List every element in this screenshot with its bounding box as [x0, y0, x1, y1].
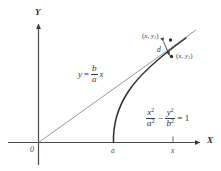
- hyperbola-y-denominator: b2: [165, 118, 174, 129]
- hyperbola-rhs: 1: [185, 114, 190, 123]
- distance-label: d: [157, 46, 161, 54]
- hyperbola-x-numerator: x2: [146, 108, 155, 118]
- asymptote-denominator: a: [91, 74, 98, 85]
- point-label-lower: (x, y1): [176, 53, 193, 60]
- hyperbola-equation: x2 a2 − y2 b2 = 1: [146, 108, 189, 128]
- asymptote-fraction: b a: [91, 64, 98, 84]
- vertex-label: a: [111, 147, 115, 155]
- hyperbola-y-num-exp: 2: [171, 107, 174, 113]
- asymptote-equation: y = b a x: [78, 64, 104, 84]
- hyperbola-y-numerator: y2: [166, 108, 175, 118]
- asymptote-numerator: b: [91, 64, 98, 74]
- upper-comma: ,: [147, 32, 149, 40]
- lower-comma: ,: [181, 52, 183, 60]
- origin-label: 0: [30, 146, 34, 154]
- hyperbola-equals: =: [177, 114, 182, 123]
- point-marker-lower: [170, 55, 173, 58]
- x-tick-label: x: [171, 147, 174, 155]
- hyperbola-diagram: Y X 0 a x d y = b a x x2 a2 − y2 b2 = 1 …: [0, 0, 221, 171]
- asymptote-equals: =: [84, 70, 89, 79]
- hyperbola-y-den-exp: 2: [171, 118, 174, 124]
- asymptote-variable: x: [100, 70, 104, 79]
- point-marker-upper: [169, 38, 172, 41]
- hyperbola-x-fraction: x2 a2: [146, 108, 155, 128]
- asymptote-lhs: y: [78, 70, 82, 79]
- point-label-upper: (x, y2): [142, 33, 159, 40]
- hyperbola-x-denominator: a2: [146, 118, 155, 129]
- hyperbola-y-fraction: y2 b2: [165, 108, 174, 128]
- hyperbola-x-den-exp: 2: [152, 118, 155, 124]
- hyperbola-x-num-exp: 2: [151, 107, 154, 113]
- upper-close-paren: ): [156, 32, 158, 40]
- y-axis-label: Y: [35, 8, 41, 17]
- lower-close-paren: ): [190, 52, 192, 60]
- x-axis-label: X: [207, 136, 213, 145]
- hyperbola-minus: −: [158, 114, 163, 123]
